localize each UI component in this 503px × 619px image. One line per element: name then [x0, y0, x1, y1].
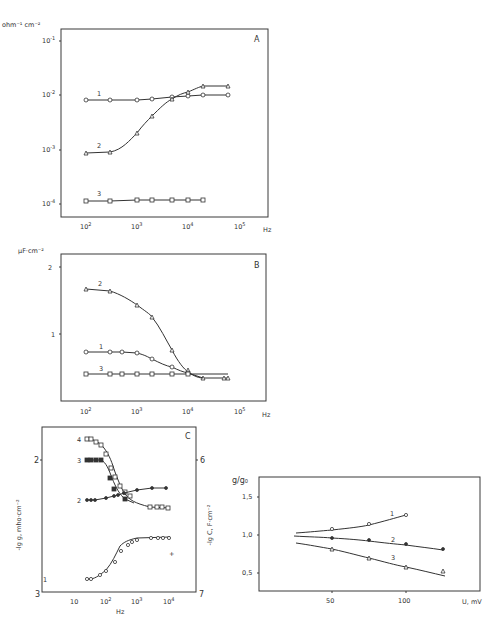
- svg-text:102: 102: [100, 596, 111, 606]
- svg-text:3: 3: [97, 190, 101, 198]
- panel-c-frame: [42, 427, 196, 592]
- panel-a-label: A: [254, 35, 260, 44]
- panel-b-label: B: [254, 261, 260, 270]
- panel-a-ylabel: ohm⁻¹ cm⁻²: [2, 21, 41, 29]
- panel-c-series-1: 1: [43, 536, 171, 584]
- panel-b-y-ticks: 2 1: [48, 264, 61, 339]
- panel-d-frame: [259, 477, 480, 591]
- svg-text:100: 100: [398, 597, 410, 605]
- svg-text:104: 104: [182, 221, 193, 231]
- svg-text:2: 2: [48, 264, 52, 272]
- svg-text:1: 1: [97, 90, 101, 98]
- svg-text:105: 105: [234, 221, 245, 231]
- panel-a-series-3: 3: [84, 190, 205, 203]
- svg-text:2: 2: [34, 456, 39, 465]
- svg-text:1,5: 1,5: [242, 493, 252, 501]
- panel-a-series-1: 1: [84, 90, 230, 102]
- svg-text:10-4: 10-4: [42, 198, 55, 208]
- svg-text:6: 6: [200, 456, 205, 465]
- svg-text:+: +: [169, 550, 174, 558]
- svg-text:103: 103: [131, 596, 142, 606]
- svg-text:2: 2: [391, 536, 395, 544]
- svg-text:105: 105: [234, 406, 245, 416]
- svg-text:Hz: Hz: [262, 411, 271, 419]
- panel-d: g/g₀ 1,5 1,0 0,5 50 100 U, mV 1: [232, 476, 482, 606]
- panel-b-ylabel: μF·cm⁻²: [18, 247, 44, 255]
- panel-a: ohm⁻¹ cm⁻² A 10-1 10-2 10-3 10-4 102 103…: [2, 21, 272, 234]
- svg-text:10: 10: [70, 598, 78, 606]
- panel-c: C -lg g, mho·cm⁻² -lg C, F·cm⁻² 2 6 3 7 …: [15, 427, 214, 616]
- svg-text:3: 3: [391, 554, 395, 562]
- svg-text:104: 104: [163, 596, 174, 606]
- panel-c-x-ticks: 10 102 103 104 Hz: [70, 596, 174, 616]
- svg-text:103: 103: [131, 221, 142, 231]
- svg-text:1,0: 1,0: [242, 531, 252, 539]
- panel-d-series-2: 2: [294, 536, 445, 551]
- svg-text:102: 102: [80, 221, 91, 231]
- panel-c-series-3: 3: [77, 457, 134, 503]
- panel-c-label: C: [185, 432, 191, 441]
- svg-text:10-2: 10-2: [42, 89, 55, 99]
- svg-text:2: 2: [97, 142, 101, 150]
- svg-text:7: 7: [199, 590, 204, 599]
- svg-text:1: 1: [51, 331, 55, 339]
- panel-c-y-ticks: 2 6 3 7: [34, 456, 205, 599]
- svg-text:1: 1: [43, 576, 47, 584]
- panel-d-series-1: 1: [296, 510, 408, 533]
- svg-text:1: 1: [99, 343, 103, 351]
- panel-b: μF·cm⁻² B 2 1 102 103 104 105 Hz 2: [18, 247, 271, 419]
- panel-c-ylabel-right: -lg C, F·cm⁻²: [206, 504, 214, 545]
- panel-a-x-ticks: 102 103 104 105 Hz: [80, 221, 272, 234]
- panel-d-x-ticks: 50 100 U, mV: [326, 591, 482, 606]
- svg-text:Hz: Hz: [263, 226, 272, 234]
- panel-a-y-ticks: 10-1 10-2 10-3 10-4: [42, 35, 61, 208]
- figure: ohm⁻¹ cm⁻² A 10-1 10-2 10-3 10-4 102 103…: [0, 0, 503, 619]
- panel-d-ylabel: g/g₀: [232, 476, 248, 485]
- svg-text:2: 2: [98, 280, 102, 288]
- svg-text:3: 3: [77, 457, 81, 465]
- svg-text:3: 3: [99, 365, 103, 373]
- svg-text:103: 103: [131, 406, 142, 416]
- panel-d-y-ticks: 1,5 1,0 0,5: [242, 493, 259, 577]
- panel-b-series-3: 3: [84, 365, 228, 376]
- svg-text:10-3: 10-3: [42, 144, 55, 154]
- svg-text:3: 3: [35, 590, 40, 599]
- panel-a-frame: [61, 29, 268, 217]
- svg-text:Hz: Hz: [116, 608, 125, 616]
- svg-text:4: 4: [77, 436, 81, 444]
- panel-b-series-2: 2: [84, 280, 230, 380]
- svg-text:2: 2: [77, 497, 81, 505]
- svg-text:10-1: 10-1: [42, 35, 55, 45]
- panel-b-frame: [61, 254, 266, 401]
- svg-text:U, mV: U, mV: [462, 598, 482, 606]
- svg-text:102: 102: [80, 406, 91, 416]
- panel-c-ylabel-left: -lg g, mho·cm⁻²: [15, 499, 23, 550]
- panel-d-series-3: 3: [296, 543, 445, 576]
- svg-text:104: 104: [182, 406, 193, 416]
- panel-b-x-ticks: 102 103 104 105 Hz: [80, 406, 271, 419]
- svg-text:0,5: 0,5: [242, 569, 252, 577]
- svg-text:50: 50: [326, 597, 334, 605]
- svg-text:1: 1: [390, 510, 394, 518]
